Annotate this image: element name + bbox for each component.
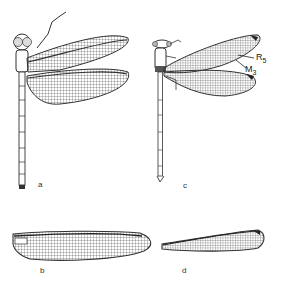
- vein-label-m3: M3: [245, 64, 256, 76]
- panel-label-d: d: [182, 266, 186, 275]
- damselfly-c: [153, 35, 261, 182]
- panel-label-c: c: [183, 181, 187, 190]
- panel-label-a: a: [38, 180, 42, 189]
- dragonfly-a: [14, 12, 129, 189]
- vein-label-r5: R5: [256, 52, 266, 64]
- panel-label-b: b: [40, 266, 44, 275]
- wing-b: [13, 231, 151, 260]
- wing-d: [162, 230, 264, 251]
- illustration: [0, 0, 283, 289]
